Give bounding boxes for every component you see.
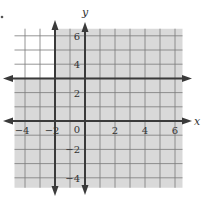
arrowhead-up-icon <box>82 22 89 32</box>
arrowhead-right-icon <box>182 75 192 82</box>
arrowhead-right-icon <box>182 118 192 125</box>
x-tick-label: −4 <box>15 125 30 136</box>
arrowhead-down-icon <box>52 186 59 196</box>
x-tick-label: 2 <box>112 125 118 136</box>
x-axis-label: x <box>194 115 201 128</box>
arrowhead-left-icon <box>3 118 13 125</box>
y-tick-label: 2 <box>74 88 80 99</box>
y-tick-label: −4 <box>65 173 80 184</box>
x-tick-label: 6 <box>172 125 178 136</box>
origin-label: 0 <box>74 124 80 135</box>
y-tick-label: 6 <box>74 31 80 42</box>
arrowhead-down-icon <box>82 185 89 195</box>
inequality-graph: −4−2246642−2−40xy <box>0 0 205 207</box>
arrowhead-up-icon <box>52 20 59 30</box>
y-axis-label: y <box>81 6 89 19</box>
x-tick-label: −2 <box>45 125 60 136</box>
arrowhead-left-icon <box>3 75 13 82</box>
y-tick-label: 4 <box>74 59 80 70</box>
problem-bullet-dot <box>1 16 4 19</box>
y-tick-label: −2 <box>65 144 80 155</box>
x-tick-label: 4 <box>142 125 148 136</box>
